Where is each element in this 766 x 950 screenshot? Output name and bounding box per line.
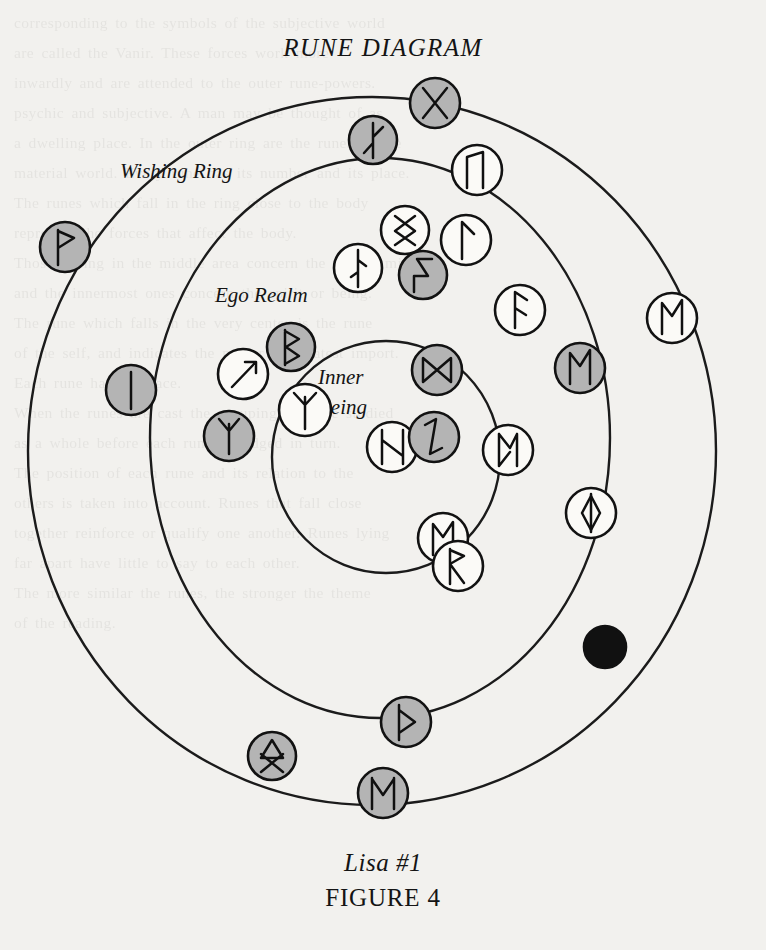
ring-label-wishing: Wishing Ring bbox=[120, 159, 233, 183]
rune-token-laguz-z[interactable] bbox=[409, 412, 459, 462]
rune-token-raido[interactable] bbox=[433, 541, 483, 591]
rune-diagram-figure: RUNE DIAGRAM Wishing Ring Ego Realm Inne… bbox=[0, 0, 766, 950]
rune-token-isa[interactable] bbox=[106, 365, 156, 415]
rune-token-tiwaz-arrow[interactable] bbox=[218, 349, 268, 399]
figure-label: FIGURE 4 bbox=[0, 884, 766, 912]
rune-token-gebo[interactable] bbox=[410, 78, 460, 128]
rune-token-laguz-a[interactable] bbox=[441, 215, 491, 265]
rune-token-perthro[interactable] bbox=[483, 425, 533, 475]
ring-label-inner-1: Inner bbox=[317, 365, 364, 389]
rune-token-blank[interactable] bbox=[584, 626, 626, 668]
rune-token-algiz-a[interactable] bbox=[349, 116, 397, 164]
rune-token-ehwaz-r[interactable] bbox=[647, 293, 697, 343]
rune-token-inguz-x[interactable] bbox=[381, 206, 429, 254]
rune-token-thurisaz[interactable] bbox=[381, 697, 431, 747]
rune-token-ansuz[interactable] bbox=[495, 285, 545, 335]
rune-token-wunjo[interactable] bbox=[40, 222, 90, 272]
rune-token-uruz[interactable] bbox=[452, 145, 502, 195]
figure-subtitle: Lisa #1 bbox=[0, 849, 766, 877]
rune-token-berkana[interactable] bbox=[267, 323, 315, 371]
rune-token-laguz-i[interactable] bbox=[334, 244, 382, 292]
rune-token-sowilo[interactable] bbox=[399, 251, 447, 299]
rune-token-algiz-y2[interactable] bbox=[204, 411, 254, 461]
rune-diagram-svg: Wishing Ring Ego Realm Inner Being bbox=[0, 0, 766, 950]
rune-token-ehwaz-m[interactable] bbox=[358, 768, 408, 818]
rune-token-dagaz[interactable] bbox=[412, 345, 462, 395]
rune-token-othala[interactable] bbox=[248, 732, 296, 780]
rune-token-inguz-o[interactable] bbox=[566, 488, 616, 538]
rune-token-ehwaz-r2[interactable] bbox=[555, 343, 605, 393]
ring-label-ego: Ego Realm bbox=[214, 283, 308, 307]
rune-token-algiz-y1[interactable] bbox=[279, 384, 331, 436]
